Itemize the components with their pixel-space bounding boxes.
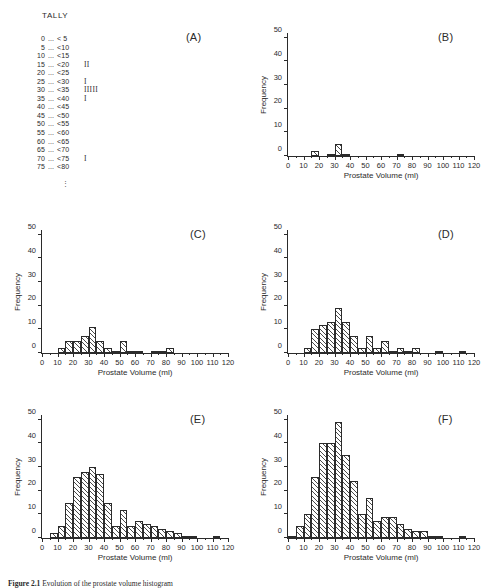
x-axis-tick-label: 10 [299,161,307,170]
histogram-bar [96,474,104,538]
x-axis-tick [73,538,74,542]
x-axis-tick [120,538,121,542]
x-axis-tick-label: 70 [146,358,154,367]
histogram-bar [213,536,221,538]
histogram-bar [58,348,66,353]
y-axis-tick [284,513,288,514]
tally-dots: ... [45,61,57,70]
x-axis-tick [73,353,74,357]
tally-bin-upper: <50 [57,112,77,121]
histogram-bar [166,348,174,353]
x-axis-tick-label: 100 [437,358,450,367]
x-axis-tick-label: 120 [468,358,481,367]
x-axis-tick-label: 120 [222,543,235,552]
histogram-bar [166,531,174,538]
x-axis-tick-minor [296,156,297,158]
x-axis-tick [366,353,367,357]
y-axis-tick-label: 40 [274,48,282,57]
x-axis-tick [350,538,351,542]
tally-dots: ... [45,103,57,112]
tally-bin-upper: <30 [57,78,77,87]
x-axis-tick-minor [373,156,374,158]
x-axis-tick [335,538,336,542]
histogram-bar [50,533,58,538]
tally-bin-upper: < 5 [57,35,77,44]
y-axis-tick-label: 0 [278,143,282,152]
y-axis-tick-label: 10 [274,119,282,128]
tally-dots: ... [45,112,57,121]
histogram-bar [327,154,335,156]
tally-row: 15...<20II [30,61,98,70]
histogram-bar [112,526,120,538]
plot-area: 010203040500102030405060708090100110120P… [287,230,474,354]
histogram-bar [397,524,405,538]
x-axis-tick-label: 40 [346,161,354,170]
x-axis-tick-minor [327,156,328,158]
tally-bin-lower: 25 [30,78,45,87]
x-axis-tick-label: 20 [69,358,77,367]
histogram-bar [397,348,405,353]
x-axis-tick [288,156,289,160]
y-axis-tick [38,419,42,420]
figure-caption-number: Figure 2.1 [8,579,40,588]
tally-marks: I [77,95,87,104]
histogram-bar [428,536,436,538]
figure-caption-text: Evolution of the prostate volume histogr… [42,579,173,588]
figure-caption: Figure 2.1 Evolution of the prostate vol… [8,579,490,588]
x-axis-tick-label: 70 [146,543,154,552]
tally-bin-upper: <40 [57,95,77,104]
x-axis-tick-label: 20 [315,543,323,552]
tally-bin-upper: <45 [57,103,77,112]
tally-bin-upper: <35 [57,86,77,95]
tally-bin-lower: 0 [30,35,45,44]
x-axis-tick-label: 60 [377,161,385,170]
tally-dots: ... [45,35,57,44]
histogram-bar [373,521,381,538]
histogram-bar [319,325,327,353]
x-axis-tick-label: 0 [40,543,44,552]
y-axis-tick-label: 0 [278,525,282,534]
x-axis-tick-minor [420,538,421,540]
x-axis-tick-label: 50 [115,358,123,367]
x-axis-tick-minor [435,156,436,158]
y-axis-tick-label: 20 [274,293,282,302]
histogram-bar [358,514,366,538]
x-axis-tick-label: 90 [423,358,431,367]
x-axis-tick [151,353,152,357]
x-axis-tick [104,353,105,357]
y-axis-tick-label: 10 [28,501,36,510]
tally-bin-lower: 15 [30,61,45,70]
tally-bin-upper: <55 [57,120,77,129]
x-axis-tick-minor [311,156,312,158]
y-axis-tick-label: 50 [274,222,282,231]
y-axis-tick [284,234,288,235]
y-axis-tick [38,305,42,306]
plot-area: 010203040500102030405060708090100110120P… [41,415,228,539]
histogram-bar [81,336,89,353]
x-axis-tick-minor [373,538,374,540]
x-axis-tick-minor [342,353,343,355]
x-axis-tick-minor [50,538,51,540]
x-axis-tick-minor [435,538,436,540]
histogram-bar [174,533,182,538]
tally-row: 40...<45 [30,103,98,112]
y-axis-tick-label: 10 [28,316,36,325]
x-axis-tick-label: 10 [53,543,61,552]
x-axis-tick-minor [296,353,297,355]
tally-dots: ... [45,44,57,53]
histogram-bar [435,351,443,353]
x-axis-tick-minor [420,353,421,355]
x-axis-tick-minor [296,538,297,540]
x-axis-tick [366,538,367,542]
x-axis-tick [213,353,214,357]
x-axis-tick-minor [451,538,452,540]
tally-bin-lower: 65 [30,146,45,155]
y-axis-tick-label: 40 [28,245,36,254]
y-axis-tick [38,234,42,235]
x-axis-tick-minor [389,353,390,355]
x-axis-tick-label: 0 [286,161,290,170]
y-axis-tick-label: 40 [28,430,36,439]
x-axis-tick-minor [327,353,328,355]
histogram-bar [135,521,143,538]
histogram-bar [151,526,159,538]
